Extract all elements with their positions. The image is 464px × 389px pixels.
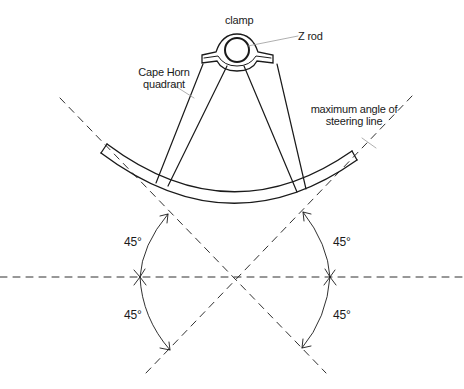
diagram-drawing: [0, 0, 464, 389]
right-steering-limit-line: [146, 96, 412, 373]
right-arm-inner: [244, 66, 297, 192]
z-rod-leader: [248, 36, 298, 46]
quadrant-arc-left-end: [101, 144, 107, 153]
right-upper-angle-arc: [303, 212, 330, 277]
z-rod-label: Z rod: [298, 30, 323, 42]
z-rod-circle: [225, 38, 249, 62]
max-angle-label-line1: maximum angle of: [303, 103, 405, 115]
max-angle-label: maximum angle of steering line: [303, 103, 405, 127]
clamp-label: clamp: [225, 14, 253, 26]
right-lower-angle-label: 45°: [333, 309, 351, 321]
left-upper-angle-label: 45°: [124, 236, 142, 248]
left-steering-limit-line: [60, 98, 326, 373]
max-angle-label-line2: steering line: [303, 115, 405, 127]
right-lower-angle-arc: [302, 277, 330, 348]
cape-horn-quadrant-label-line2: quadrant: [124, 78, 204, 90]
quadrant-arc-right-end: [352, 151, 357, 160]
right-upper-angle-label: 45°: [333, 236, 351, 248]
left-lower-angle-arc: [140, 277, 170, 350]
cape-horn-quadrant-label: Cape Horn quadrant: [124, 66, 204, 90]
left-upper-angle-arc: [140, 214, 168, 277]
clamp-body: [202, 34, 273, 71]
right-arm-outer: [277, 64, 306, 189]
diagram-canvas: clamp Z rod Cape Horn quadrant maximum a…: [0, 0, 464, 389]
left-upper-arrowhead-bottom: [134, 269, 145, 277]
quadrant-arc-outer: [101, 153, 357, 203]
left-lower-angle-label: 45°: [124, 309, 142, 321]
cape-horn-quadrant-label-line1: Cape Horn: [124, 66, 204, 78]
